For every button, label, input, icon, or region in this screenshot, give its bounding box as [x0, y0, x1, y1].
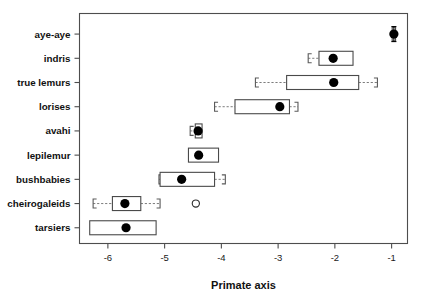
- median-marker: [120, 199, 129, 208]
- boxplot-group-cheirogaleids: [93, 197, 199, 211]
- x-tick-label: -5: [160, 252, 168, 263]
- y-tick-label-lepilemur: lepilemur: [27, 150, 71, 161]
- median-marker: [194, 126, 203, 135]
- y-tick-label-lorises: lorises: [39, 101, 71, 112]
- boxplot-group-aye-aye: [389, 27, 398, 42]
- boxplot-group-tarsiers: [90, 221, 156, 235]
- boxplot-group-lepilemur: [188, 148, 218, 162]
- median-marker: [121, 223, 130, 232]
- primate-axis-boxplot-chart: -6-5-4-3-2-1Primate axisaye-ayeindristru…: [0, 0, 421, 295]
- x-tick-label: -2: [331, 252, 339, 263]
- boxplot-group-bushbabies: [159, 172, 225, 186]
- median-marker: [194, 151, 203, 160]
- x-tick-label: -6: [104, 252, 112, 263]
- median-marker: [275, 102, 284, 111]
- y-tick-label-cheirogaleids: cheirogaleids: [7, 198, 71, 209]
- x-axis-title: Primate axis: [211, 279, 276, 291]
- y-tick-label-true-lemurs: true lemurs: [17, 77, 71, 88]
- median-marker: [329, 78, 338, 87]
- box-rect: [287, 76, 359, 90]
- y-tick-label-tarsiers: tarsiers: [35, 222, 71, 233]
- x-tick-label: -1: [387, 252, 395, 263]
- y-tick-label-bushbabies: bushbabies: [16, 174, 71, 185]
- outlier-marker: [192, 200, 199, 207]
- boxplot-group-true-lemurs: [255, 76, 377, 90]
- box-rect: [188, 148, 218, 162]
- boxplot-group-indris: [308, 51, 353, 65]
- chart-canvas: -6-5-4-3-2-1Primate axisaye-ayeindristru…: [0, 0, 421, 295]
- median-marker: [389, 29, 398, 38]
- boxplot-group-lorises: [215, 100, 298, 114]
- boxplot-group-avahi: [190, 124, 203, 138]
- box-rect: [160, 172, 214, 186]
- x-tick-label: -4: [217, 252, 225, 263]
- median-marker: [329, 54, 338, 63]
- median-marker: [177, 175, 186, 184]
- y-tick-label-indris: indris: [44, 53, 71, 64]
- y-tick-label-avahi: avahi: [45, 125, 70, 136]
- x-tick-label: -3: [274, 252, 282, 263]
- y-tick-label-aye-aye: aye-aye: [35, 29, 72, 40]
